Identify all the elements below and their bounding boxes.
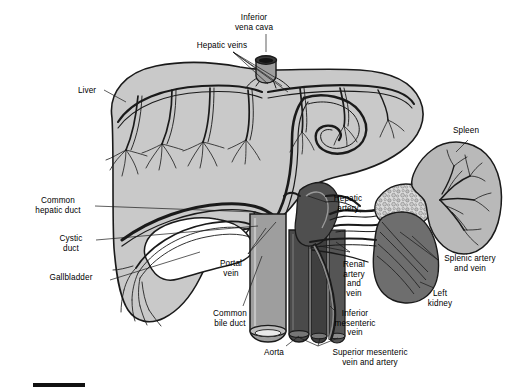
label-aorta: Aorta xyxy=(253,348,295,358)
label-hepatic-artery: Hepatic artery xyxy=(322,194,374,213)
label-renal-artery-and-vein: Renal artery and vein xyxy=(332,260,376,298)
aorta-vessel xyxy=(289,230,309,342)
label-common-hepatic-duct: Common hepatic duct xyxy=(10,196,106,215)
label-inferior-mesenteric-vein: Inferior mesenteric vein xyxy=(324,309,386,338)
label-liver: Liver xyxy=(67,86,107,96)
label-gallbladder: Gallbladder xyxy=(26,273,116,283)
figure-canvas: Inferior vena cava Hepatic veins Liver S… xyxy=(0,0,525,391)
label-superior-mesenteric-vein-and-artery: Superior mesenteric vein and artery xyxy=(305,348,435,367)
label-left-kidney: Left kidney xyxy=(418,289,462,308)
scale-bar xyxy=(33,383,85,387)
label-cystic-duct: Cystic duct xyxy=(43,234,99,253)
label-common-bile-duct: Common bile duct xyxy=(201,309,259,328)
label-spleen: Spleen xyxy=(440,126,492,136)
label-inferior-vena-cava: Inferior vena cava xyxy=(214,13,294,32)
label-hepatic-veins: Hepatic veins xyxy=(164,41,280,51)
label-splenic-artery-and-vein: Splenic artery and vein xyxy=(418,254,522,273)
label-portal-vein: Portal vein xyxy=(207,259,255,278)
